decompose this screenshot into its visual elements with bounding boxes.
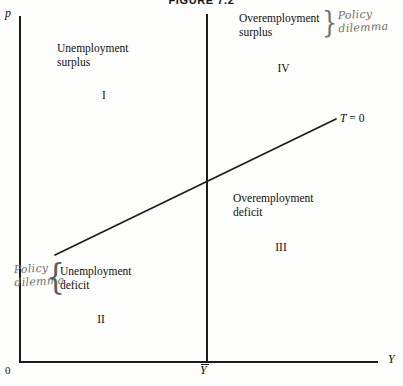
origin-label: 0 (5, 364, 11, 376)
horizontal-axis (19, 361, 378, 363)
quadrant-1-block: Unemployment surplus I (57, 42, 167, 103)
quadrant-1-line1: Unemployment (57, 42, 167, 56)
figure-title: FIGURE 7.2 (0, 0, 403, 6)
quadrant-3-line2: deficit (233, 206, 345, 220)
annotation-policy-dilemma-top-right: Policy dilemma (337, 7, 388, 36)
t-equals-zero-label: T = 0 (340, 112, 364, 124)
figure-canvas: FIGURE 7.2 p 0 Y Y T = 0 Unemployment su… (0, 0, 403, 386)
quadrant-3-block: Overemployment deficit III (233, 192, 345, 255)
quadrant-2-line2: deficit (60, 279, 160, 293)
quadrant-1-numeral: I (41, 89, 167, 103)
quadrant-3-line1: Overemployment (233, 192, 345, 206)
quadrant-4-numeral: IV (223, 62, 344, 76)
full-employment-output-letter: Y (200, 363, 207, 377)
annotation-tr-line2: dilemma (338, 20, 389, 36)
annotation-brace-top-right-icon: } (322, 7, 337, 37)
full-employment-vertical-line (206, 14, 208, 362)
t-equals-zero-suffix: = 0 (346, 112, 364, 124)
quadrant-2-numeral: II (42, 313, 160, 327)
full-employment-output-label: Y (200, 364, 209, 378)
quadrant-2-block: Unemployment deficit II (60, 265, 160, 327)
quadrant-1-line2: surplus (57, 56, 167, 70)
annotation-brace-bottom-left-icon: { (46, 260, 65, 295)
y-axis-label: p (5, 6, 11, 21)
quadrant-2-line1: Unemployment (60, 265, 160, 279)
x-axis-label: Y (388, 352, 395, 367)
vertical-axis (19, 16, 21, 363)
quadrant-3-numeral: III (217, 241, 345, 255)
